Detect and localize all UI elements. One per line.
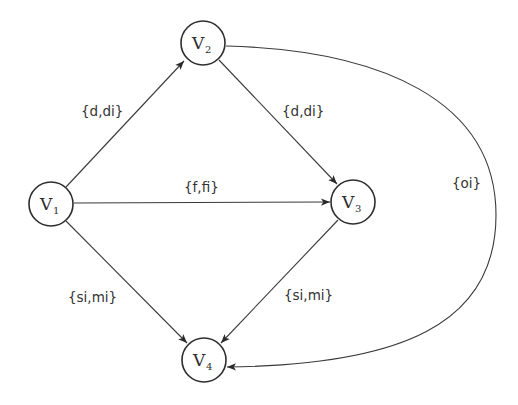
edges [66,46,496,367]
node-v1: V 1 [29,182,73,226]
node-v2-subscript: 2 [205,44,211,55]
edge-label-v1-v4: {si,mi} [68,289,117,305]
node-v2: V 2 [181,21,225,65]
edge-v1-v3 [74,202,330,203]
node-v1-subscript: 1 [53,205,59,216]
node-v4-subscript: 4 [206,361,212,372]
edge-label-v1-v3: {f,fi} [184,179,219,195]
node-v3-subscript: 3 [355,203,361,214]
edge-label-v3-v4: {si,mi} [284,287,333,303]
edge-v1-v4 [66,221,187,343]
edge-label-v2-v3: {d,di} [282,103,324,119]
graph-canvas: {d,di} {d,di} {f,fi} {si,mi} {si,mi} {oi… [0,0,518,405]
node-v4-label: V [192,350,206,370]
edge-labels: {d,di} {d,di} {f,fi} {si,mi} {si,mi} {oi… [68,103,481,305]
node-v3: V 3 [331,180,375,224]
edge-label-v2-v4: {oi} [452,175,481,191]
edge-v3-v4 [221,220,338,343]
node-v2-label: V [191,33,205,53]
node-v1-label: V [39,194,53,214]
edge-v1-v2 [66,61,184,187]
edge-label-v1-v2: {d,di} [81,103,123,119]
edge-v2-v3 [219,60,337,184]
node-v4: V 4 [182,338,226,382]
node-v3-label: V [341,192,355,212]
